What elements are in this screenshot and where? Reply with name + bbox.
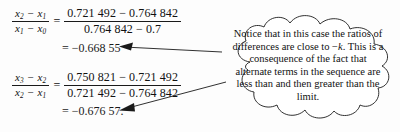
equation-1-lhs-denominator: x1 − x0	[12, 22, 49, 35]
equation-1-result: = −0.668 55	[62, 41, 121, 56]
callout-line-1: Notice that in this case	[234, 28, 330, 39]
equation-2-rhs-fraction: 0.750 821 − 0.721 492 0.721 492 − 0.764 …	[64, 70, 181, 100]
var-x: x	[37, 22, 42, 34]
subscript: 2	[43, 77, 47, 85]
equation-2-main-row: x3 − x2 x2 − x1 = 0.750 821 − 0.721 492 …	[12, 70, 181, 100]
arrow-to-result-1-shaft	[124, 47, 222, 52]
minus-sign: −	[27, 22, 35, 34]
callout-line-3-before-k: to −	[321, 41, 338, 52]
equation-1-rhs-denominator: 0.764 842 − 0.7	[81, 22, 164, 36]
equation-1-lhs-fraction: x2 − x1 x1 − x0	[12, 7, 49, 35]
var-x: x	[37, 71, 42, 83]
equation-1-main-row: x2 − x1 x1 − x0 = 0.721 492 − 0.764 842 …	[12, 6, 181, 36]
equation-1-lhs-numerator: x2 − x1	[12, 7, 49, 20]
var-x: x	[37, 7, 42, 19]
arrow-to-result-1-head	[119, 43, 133, 51]
callout-cloud: Notice that in this case the ratios of d…	[214, 8, 398, 126]
minus-sign: −	[27, 86, 35, 98]
equation-block-2: x3 − x2 x2 − x1 = 0.750 821 − 0.721 492 …	[12, 70, 181, 100]
equation-2-result: = −0.676 57.	[62, 104, 124, 119]
equation-2-lhs-denominator: x2 − x1	[12, 86, 49, 99]
subscript: 3	[20, 77, 24, 85]
subscript: 2	[20, 13, 24, 21]
subscript: 1	[20, 28, 24, 36]
equation-2-lhs-fraction: x3 − x2 x2 − x1	[12, 71, 49, 99]
equation-2-rhs-denominator: 0.721 492 − 0.764 842	[64, 86, 181, 100]
minus-sign: −	[27, 7, 35, 19]
subscript: 1	[43, 92, 47, 100]
figure-canvas: x2 − x1 x1 − x0 = 0.721 492 − 0.764 842 …	[0, 0, 400, 132]
equation-1-rhs-fraction: 0.721 492 − 0.764 842 0.764 842 − 0.7	[64, 6, 181, 36]
subscript: 1	[43, 13, 47, 21]
equation-block-1: x2 − x1 x1 − x0 = 0.721 492 − 0.764 842 …	[12, 6, 181, 36]
equation-2-lhs-numerator: x3 − x2	[12, 71, 49, 84]
var-x: x	[37, 86, 42, 98]
callout-text: Notice that in this case the ratios of d…	[232, 28, 384, 104]
equation-2-equals-sign: =	[49, 78, 64, 93]
equation-2-rhs-numerator: 0.750 821 − 0.721 492	[64, 70, 181, 84]
subscript: 2	[20, 92, 24, 100]
subscript: 0	[43, 28, 47, 36]
minus-sign: −	[27, 71, 35, 83]
equation-1-equals-sign: =	[49, 14, 64, 29]
equation-1-rhs-numerator: 0.721 492 − 0.764 842	[64, 6, 181, 20]
